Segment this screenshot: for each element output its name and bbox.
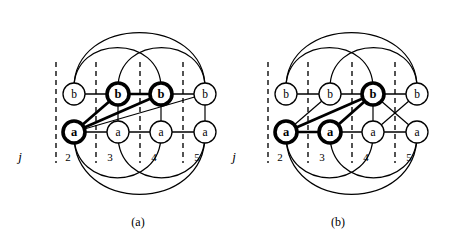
node-b1-label: b: [71, 88, 77, 100]
node-b3-label: b: [370, 87, 377, 101]
node-b4-label: b: [414, 88, 420, 100]
panel-b: b b b b a: [230, 33, 428, 230]
node-b1-label: b: [283, 88, 289, 100]
node-a3[interactable]: a: [362, 121, 384, 143]
node-a3[interactable]: a: [150, 121, 172, 143]
node-a3-label: a: [158, 126, 163, 138]
node-b2-label: b: [327, 88, 333, 100]
node-a2[interactable]: a: [319, 121, 341, 143]
figure-container: b b b b a: [0, 0, 449, 236]
node-b2[interactable]: b: [319, 83, 341, 105]
node-a1-label: a: [283, 125, 290, 139]
node-b4[interactable]: b: [194, 83, 216, 105]
node-a4[interactable]: a: [406, 121, 428, 143]
node-b2[interactable]: b: [107, 83, 129, 105]
node-a1[interactable]: a: [275, 121, 297, 143]
column-label-5: 5: [406, 151, 412, 163]
panel-b-top-arcs: [286, 33, 417, 89]
column-label-3: 3: [107, 151, 113, 163]
panel-a-column-labels: 2 3 4 5: [65, 151, 200, 163]
arc-top-b1-b4: [286, 33, 417, 89]
column-label-4: 4: [363, 151, 369, 163]
column-label-5: 5: [194, 151, 200, 163]
column-label-3: 3: [319, 151, 325, 163]
column-label-2: 2: [65, 151, 71, 163]
node-a2-label: a: [115, 126, 120, 138]
column-label-4: 4: [151, 151, 157, 163]
arc-top-b1-b4: [74, 33, 205, 89]
panel-a: b b b b a: [16, 33, 216, 230]
node-b2-label: b: [115, 87, 122, 101]
node-b4[interactable]: b: [406, 83, 428, 105]
caption-b: (b): [331, 215, 345, 229]
panel-a-top-arcs: [74, 33, 205, 89]
node-b1[interactable]: b: [275, 83, 297, 105]
node-a4-label: a: [414, 126, 419, 138]
caption-a: (a): [131, 215, 144, 229]
node-a4-label: a: [202, 126, 207, 138]
node-a1[interactable]: a: [63, 121, 85, 143]
node-a2[interactable]: a: [107, 121, 129, 143]
diagram-svg: b b b b a: [0, 0, 449, 236]
node-b4-label: b: [202, 88, 208, 100]
column-label-2: 2: [277, 151, 283, 163]
node-b3[interactable]: b: [362, 83, 384, 105]
node-b1[interactable]: b: [63, 83, 85, 105]
node-b3-label: b: [158, 87, 165, 101]
panel-b-column-labels: 2 3 4 5: [277, 151, 412, 163]
axis-label-j-a: j: [16, 149, 22, 164]
node-a1-label: a: [71, 125, 78, 139]
node-a2-label: a: [327, 125, 334, 139]
node-b3[interactable]: b: [150, 83, 172, 105]
axis-label-j-b: j: [230, 149, 236, 164]
node-a3-label: a: [370, 126, 375, 138]
node-a4[interactable]: a: [194, 121, 216, 143]
